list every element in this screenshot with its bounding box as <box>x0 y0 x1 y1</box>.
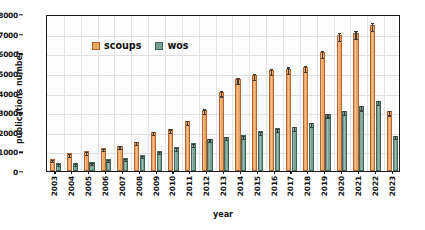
bar-highlight <box>344 112 345 170</box>
x-axis-title: year <box>46 210 400 219</box>
error-cap <box>124 159 127 160</box>
error-cap <box>68 157 71 158</box>
bar-highlight <box>338 36 339 170</box>
bar-scoups-2020 <box>337 35 342 171</box>
bar-wos-2012 <box>207 139 212 171</box>
bar-highlight <box>220 93 221 170</box>
gridline-horizontal <box>47 55 399 56</box>
error-cap <box>293 131 296 132</box>
error-cap <box>354 31 357 32</box>
error-cap <box>388 111 391 112</box>
error-cap <box>343 111 346 112</box>
error-cap <box>270 69 273 70</box>
error-cap <box>394 139 397 140</box>
gridline-vertical <box>232 16 233 171</box>
publications-bar-chart: 010002000300040005000600070008000 public… <box>0 0 425 230</box>
gridline-vertical <box>216 16 217 171</box>
bar-highlight <box>378 102 379 170</box>
error-cap <box>276 129 279 130</box>
error-cap <box>135 142 138 143</box>
error-cap <box>220 91 223 92</box>
error-cap <box>360 106 363 107</box>
bar-highlight <box>288 70 289 170</box>
x-tick-mark <box>172 171 173 174</box>
error-cap <box>388 115 391 116</box>
error-cap <box>169 133 172 134</box>
error-cap <box>90 165 93 166</box>
gridline-vertical <box>334 16 335 171</box>
bar-highlight <box>305 68 306 170</box>
error-cap <box>124 161 127 162</box>
x-tick-label-2023: 2023 <box>388 176 397 196</box>
x-tick-mark <box>88 171 89 174</box>
error-cap <box>293 127 296 128</box>
error-cap <box>85 155 88 156</box>
error-bar-scoups-2021 <box>355 31 356 39</box>
error-cap <box>338 41 341 42</box>
bar-highlight <box>372 26 373 170</box>
bar-highlight <box>395 137 396 170</box>
x-tick-mark <box>307 171 308 174</box>
error-cap <box>141 158 144 159</box>
error-cap <box>158 154 161 155</box>
error-cap <box>371 31 374 32</box>
x-tick-label-2014: 2014 <box>236 176 245 196</box>
error-cap <box>326 114 329 115</box>
bar-highlight <box>327 115 328 171</box>
x-tick-mark <box>71 171 72 174</box>
bar-highlight <box>389 112 390 170</box>
bar-wos-2015 <box>258 131 263 171</box>
error-cap <box>287 74 290 75</box>
gridline-vertical <box>199 16 200 171</box>
x-tick-mark <box>375 171 376 174</box>
legend-item-scoups[interactable]: scoups <box>92 40 141 51</box>
plot-area <box>46 15 400 172</box>
error-cap <box>253 74 256 75</box>
bar-highlight <box>203 111 204 170</box>
error-cap <box>236 84 239 85</box>
bar-wos-2020 <box>342 111 347 171</box>
error-cap <box>354 39 357 40</box>
x-tick-label-2012: 2012 <box>202 176 211 196</box>
x-tick-label-2005: 2005 <box>84 176 93 196</box>
error-cap <box>321 51 324 52</box>
error-cap <box>338 33 341 34</box>
legend-label: wos <box>167 40 188 51</box>
x-tick-label-2010: 2010 <box>168 176 177 196</box>
x-tick-label-2015: 2015 <box>253 176 262 196</box>
bar-highlight <box>321 53 322 170</box>
x-tick-label-2020: 2020 <box>337 176 346 196</box>
bar-highlight <box>237 80 238 170</box>
error-cap <box>186 125 189 126</box>
gridline-vertical <box>249 16 250 171</box>
bar-wos-2021 <box>359 106 364 171</box>
bar-highlight <box>209 140 210 170</box>
bar-highlight <box>136 143 137 170</box>
x-tick-label-2017: 2017 <box>286 176 295 196</box>
error-cap <box>259 132 262 133</box>
bar-scoups-2015 <box>252 75 257 171</box>
x-tick-mark <box>358 171 359 174</box>
gridline-vertical <box>81 16 82 171</box>
x-tick-label-2008: 2008 <box>135 176 144 196</box>
bar-highlight <box>192 144 193 170</box>
x-tick-label-2022: 2022 <box>371 176 380 196</box>
error-bar-scoups-2022 <box>372 23 373 31</box>
x-tick-mark <box>105 171 106 174</box>
error-cap <box>208 139 211 140</box>
error-cap <box>236 78 239 79</box>
error-cap <box>304 66 307 67</box>
x-tick-mark <box>223 171 224 174</box>
x-tick-mark <box>392 171 393 174</box>
error-cap <box>304 72 307 73</box>
gridline-horizontal <box>47 36 399 37</box>
error-cap <box>208 142 211 143</box>
error-cap <box>276 132 279 133</box>
x-tick-mark <box>290 171 291 174</box>
error-cap <box>141 156 144 157</box>
error-cap <box>242 136 245 137</box>
error-cap <box>310 127 313 128</box>
bar-scoups-2011 <box>185 121 190 171</box>
error-cap <box>51 162 54 163</box>
legend-item-wos[interactable]: wos <box>155 40 188 51</box>
